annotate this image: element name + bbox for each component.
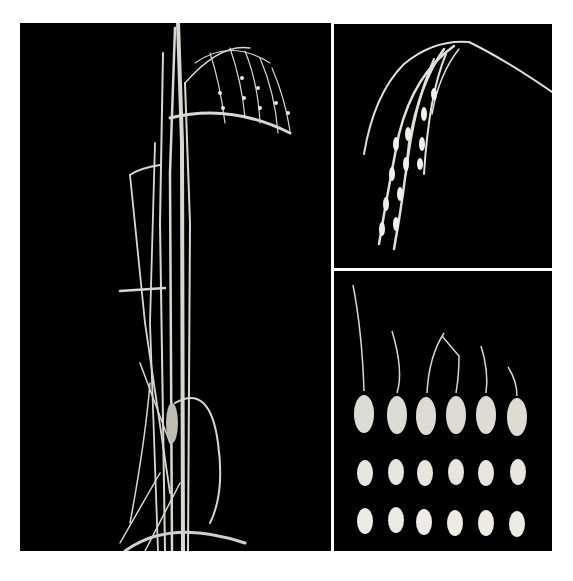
rice-panicle-illustration (334, 24, 552, 268)
panel-panicle-closeup: Close-up of a drooping rice panicle (334, 24, 552, 268)
rice-grains-illustration (334, 271, 552, 551)
row-milled-rice (357, 507, 525, 537)
row-brown-rice (357, 459, 526, 486)
row-paddy-grains (354, 395, 527, 436)
panel-seed-grid: Rice grains arranged in three rows of si… (334, 271, 552, 551)
rice-plant-illustration (20, 23, 331, 551)
panel-whole-plant: Whole rice plant with panicles growing f… (20, 23, 331, 551)
